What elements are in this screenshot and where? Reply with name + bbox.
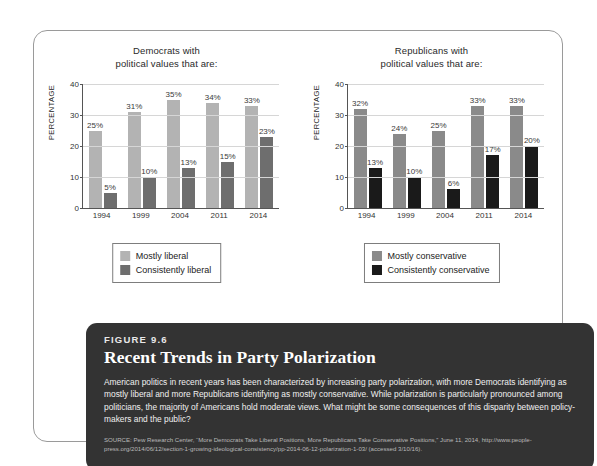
legend-swatch-icon <box>371 265 381 275</box>
bar-value-label: 24% <box>391 124 407 133</box>
chart-republicans-x-tick-2011: 2011 <box>465 211 504 220</box>
legend-swatch-icon <box>120 251 130 261</box>
chart-republicans-y-tick-20: 20 <box>335 142 344 151</box>
figure-caption-panel: FIGURE 9.6 Recent Trends in Party Polari… <box>86 323 594 466</box>
y-tick-mark <box>80 115 83 116</box>
chart-republicans-y-tick-30: 30 <box>335 111 344 120</box>
chart-democrats-x-tick-2004: 2004 <box>160 211 199 220</box>
bar-value-label: 10% <box>406 167 422 176</box>
gridline <box>348 146 544 147</box>
bar-value-label: 20% <box>524 136 540 145</box>
y-tick-mark <box>345 115 348 116</box>
gridline <box>83 146 279 147</box>
bar-value-label: 33% <box>244 96 260 105</box>
legend-label: Consistently liberal <box>136 263 212 277</box>
chart-republicans: Republicans with political values that a… <box>299 37 564 287</box>
legend-label: Consistently conservative <box>387 263 489 277</box>
chart-democrats-y-tick-40: 40 <box>70 80 79 89</box>
figure-source-citation: SOURCE: Pew Research Center, “More Democ… <box>104 435 576 454</box>
legend-label: Mostly liberal <box>136 249 189 263</box>
chart-democrats-plot-area: PERCENTAGE 25%5%31%10%35%13%34%15%33%23%… <box>34 78 299 228</box>
figure-description: American politics in recent years has be… <box>104 376 576 426</box>
bar: 13% <box>182 168 195 208</box>
chart-republicans-legend: Mostly conservativeConsistently conserva… <box>363 243 499 283</box>
y-tick-mark <box>80 146 83 147</box>
chart-democrats-y-axis-label: PERCENTAGE <box>47 68 56 158</box>
legend-swatch-icon <box>371 251 381 261</box>
chart-republicans-x-tick-2004: 2004 <box>425 211 464 220</box>
chart-democrats-x-tick-1994: 1994 <box>82 211 121 220</box>
y-tick-mark <box>80 84 83 85</box>
bar: 33% <box>510 106 523 208</box>
chart-democrats-x-tick-1999: 1999 <box>121 211 160 220</box>
chart-democrats-title-line1: Democrats with <box>34 45 299 58</box>
bar-value-label: 35% <box>165 90 181 99</box>
chart-democrats-legend: Mostly liberalConsistently liberal <box>112 243 222 283</box>
chart-republicans-x-tick-labels: 19941999200420112014 <box>347 211 543 220</box>
gridline <box>348 84 544 85</box>
figure-number: FIGURE 9.6 <box>104 334 576 345</box>
chart-democrats: Democrats with political values that are… <box>34 37 299 287</box>
chart-democrats-y-tick-10: 10 <box>70 173 79 182</box>
bar-value-label: 23% <box>259 127 275 136</box>
chart-democrats-y-tick-0: 0 <box>75 204 79 213</box>
chart-democrats-y-tick-30: 30 <box>70 111 79 120</box>
bar-value-label: 5% <box>104 183 116 192</box>
chart-republicans-x-tick-1999: 1999 <box>386 211 425 220</box>
bar-value-label: 32% <box>352 99 368 108</box>
legend-item: Mostly liberal <box>120 249 212 263</box>
y-tick-mark <box>345 208 348 209</box>
gridline <box>348 177 544 178</box>
bar-value-label: 15% <box>220 152 236 161</box>
bar-value-label: 25% <box>87 121 103 130</box>
chart-republicans-x-tick-2014: 2014 <box>504 211 543 220</box>
y-tick-mark <box>345 146 348 147</box>
bar: 32% <box>354 109 367 208</box>
bar: 17% <box>486 155 499 208</box>
bar-value-label: 33% <box>509 96 525 105</box>
gridline <box>83 84 279 85</box>
chart-democrats-title: Democrats with political values that are… <box>34 37 299 70</box>
bar-value-label: 31% <box>126 102 142 111</box>
legend-swatch-icon <box>120 265 130 275</box>
chart-republicans-title: Republicans with political values that a… <box>299 37 564 70</box>
chart-democrats-x-tick-2014: 2014 <box>239 211 278 220</box>
bar-value-label: 13% <box>180 158 196 167</box>
chart-republicans-plot-area: PERCENTAGE 32%13%24%10%25%6%33%17%33%20%… <box>299 78 564 228</box>
legend-item: Consistently liberal <box>120 263 212 277</box>
bar: 13% <box>369 168 382 208</box>
chart-republicans-x-tick-1994: 1994 <box>347 211 386 220</box>
gridline <box>83 115 279 116</box>
chart-republicans-title-line1: Republicans with <box>299 45 564 58</box>
charts-row: Democrats with political values that are… <box>34 37 564 287</box>
chart-democrats-x-tick-2011: 2011 <box>200 211 239 220</box>
chart-democrats-x-tick-labels: 19941999200420112014 <box>82 211 278 220</box>
bar-value-label: 34% <box>205 93 221 102</box>
chart-republicans-plot: 32%13%24%10%25%6%33%17%33%20% 010203040 <box>347 84 544 209</box>
bar: 25% <box>432 131 445 209</box>
bar: 5% <box>104 193 117 209</box>
chart-republicans-title-line2: political values that are: <box>299 58 564 71</box>
chart-democrats-y-tick-20: 20 <box>70 142 79 151</box>
chart-republicans-y-tick-10: 10 <box>335 173 344 182</box>
figure-title: Recent Trends in Party Polarization <box>104 347 576 368</box>
bar: 23% <box>260 137 273 208</box>
bar: 10% <box>143 177 156 208</box>
legend-item: Mostly conservative <box>371 249 489 263</box>
bar: 34% <box>206 103 219 208</box>
bar: 31% <box>128 112 141 208</box>
chart-republicans-y-tick-0: 0 <box>340 204 344 213</box>
legend-item: Consistently conservative <box>371 263 489 277</box>
bar-value-label: 10% <box>141 167 157 176</box>
y-tick-mark <box>80 208 83 209</box>
bar: 15% <box>221 162 234 209</box>
bar-value-label: 25% <box>430 121 446 130</box>
chart-republicans-y-axis-label: PERCENTAGE <box>312 68 321 158</box>
bar-value-label: 13% <box>367 158 383 167</box>
y-tick-mark <box>80 177 83 178</box>
chart-republicans-y-tick-40: 40 <box>335 80 344 89</box>
figure-card: Democrats with political values that are… <box>33 30 563 442</box>
chart-democrats-plot: 25%5%31%10%35%13%34%15%33%23% 010203040 <box>82 84 279 209</box>
bar: 24% <box>393 134 406 208</box>
gridline <box>348 115 544 116</box>
